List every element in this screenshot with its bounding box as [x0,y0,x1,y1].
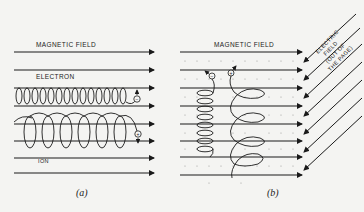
caption-a: (a) [76,187,88,199]
ion-label: ION [38,158,49,164]
ion-drift-helix [230,76,265,178]
electron-drift-helix [197,79,214,157]
caption-b: (b) [267,187,279,199]
electron-particle: − [134,90,140,102]
panel-b: MAGNETIC FIELD − + [180,14,362,199]
magnetic-field-label-b: MAGNETIC FIELD [214,41,274,48]
electric-field-label: ELECTRIC FIELD (OUT OF THE PAGE) [312,29,355,73]
magnetic-field-label-a: MAGNETIC FIELD [36,41,96,48]
electron-label: ELECTRON [36,73,75,80]
magnetic-field-lines-b [180,52,302,175]
electron-charge-b: − [211,73,214,79]
ion-charge: + [137,131,140,137]
ion-helix [14,113,137,148]
electron-helix [16,88,136,104]
ion-charge-b: + [230,70,233,76]
magnetic-field-lines-a [14,52,154,173]
panel-a: MAGNETIC FIELD ELECTRON − [14,41,154,199]
charged-particle-motion-figure: MAGNETIC FIELD ELECTRON − [0,0,364,212]
electron-charge: − [136,96,139,102]
ion-particle-b: + [228,66,236,76]
electron-particle-b: − [205,71,215,79]
